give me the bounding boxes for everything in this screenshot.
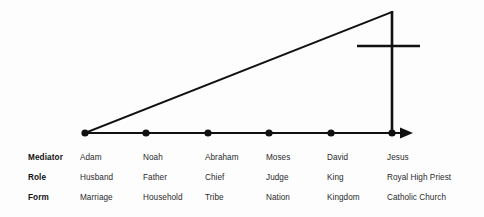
diagram-page: Mediator Adam Noah Abraham Moses David J… bbox=[0, 0, 484, 217]
cell-form-abraham: Tribe bbox=[205, 192, 224, 204]
cell-role-david: King bbox=[327, 172, 344, 184]
cell-role-abraham: Chief bbox=[205, 172, 224, 184]
cell-form-jesus: Catholic Church bbox=[387, 192, 446, 204]
cell-mediator-abraham: Abraham bbox=[205, 152, 239, 164]
cell-form-moses: Nation bbox=[266, 192, 290, 204]
row-header-mediator: Mediator bbox=[28, 152, 63, 164]
cell-mediator-adam: Adam bbox=[80, 152, 102, 164]
cell-form-adam: Marriage bbox=[80, 192, 113, 204]
table-row: Form Marriage Household Tribe Nation Kin… bbox=[0, 192, 484, 206]
row-header-form: Form bbox=[28, 192, 49, 204]
cell-form-noah: Household bbox=[143, 192, 183, 204]
table-row: Role Husband Father Chief Judge King Roy… bbox=[0, 172, 484, 186]
cell-role-moses: Judge bbox=[266, 172, 289, 184]
cell-role-jesus: Royal High Priest bbox=[387, 172, 451, 184]
cell-form-david: Kingdom bbox=[327, 192, 360, 204]
cell-role-noah: Father bbox=[143, 172, 167, 184]
mediator-table: Mediator Adam Noah Abraham Moses David J… bbox=[0, 0, 484, 217]
cell-role-adam: Husband bbox=[80, 172, 113, 184]
cell-mediator-david: David bbox=[327, 152, 348, 164]
cell-mediator-jesus: Jesus bbox=[387, 152, 409, 164]
cell-mediator-moses: Moses bbox=[266, 152, 290, 164]
row-header-role: Role bbox=[28, 172, 46, 184]
cell-mediator-noah: Noah bbox=[143, 152, 163, 164]
table-row: Mediator Adam Noah Abraham Moses David J… bbox=[0, 152, 484, 166]
